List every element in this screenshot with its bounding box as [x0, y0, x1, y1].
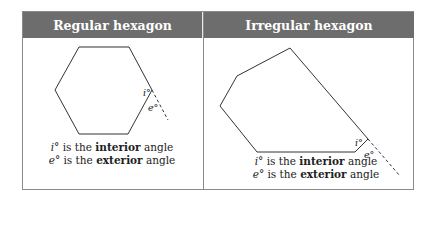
- irregular-hexagon-shape: [220, 48, 368, 152]
- regular-interior-angle-label: i°: [143, 87, 151, 98]
- caption-line-interior: i° is the interior angle: [231, 155, 401, 168]
- caption-line-exterior: e° is the exterior angle: [231, 168, 401, 181]
- caption-line-exterior: e° is the exterior angle: [32, 154, 192, 167]
- irregular-hexagon-caption: i° is the interior angle e° is the exter…: [231, 155, 401, 181]
- regular-exterior-angle-label: e°: [148, 102, 158, 113]
- regular-hexagon-shape: [55, 47, 152, 134]
- irregular-interior-angle-label: i°: [355, 137, 363, 148]
- regular-hexagon-caption: i° is the interior angle e° is the exter…: [32, 141, 192, 167]
- caption-line-interior: i° is the interior angle: [32, 141, 192, 154]
